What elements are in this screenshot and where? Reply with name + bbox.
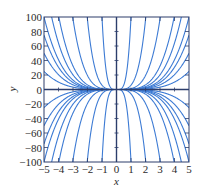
y-tick-label: −40 bbox=[25, 113, 43, 125]
x-tick-label: 5 bbox=[186, 163, 192, 175]
y-tick-label: 20 bbox=[31, 69, 43, 81]
y-axis-label: y bbox=[6, 86, 18, 92]
chart: 100806040200−20−40−60−80−100 −5−4−3−2−10… bbox=[0, 0, 202, 188]
x-tick-label: 0 bbox=[114, 163, 120, 175]
x-tick-label: 2 bbox=[143, 163, 149, 175]
y-tick-label: −60 bbox=[25, 127, 43, 139]
y-tick-label: −20 bbox=[25, 98, 43, 110]
x-tick-label: −4 bbox=[53, 163, 65, 175]
x-tick-labels: −5−4−3−2−1012345 bbox=[38, 163, 192, 175]
x-tick-label: 3 bbox=[157, 163, 163, 175]
x-axis-label: x bbox=[113, 175, 119, 187]
axes bbox=[44, 17, 189, 162]
x-tick-label: 1 bbox=[128, 163, 134, 175]
x-tick-label: −5 bbox=[38, 163, 50, 175]
x-tick-label: −3 bbox=[67, 163, 79, 175]
y-tick-label: 100 bbox=[26, 11, 43, 23]
y-tick-label: 40 bbox=[31, 55, 43, 67]
y-tick-label: 60 bbox=[31, 40, 43, 52]
x-tick-label: 4 bbox=[172, 163, 178, 175]
x-tick-label: −2 bbox=[82, 163, 94, 175]
y-tick-label: −80 bbox=[25, 142, 43, 154]
y-tick-labels: 100806040200−20−40−60−80−100 bbox=[19, 11, 42, 168]
y-tick-label: 80 bbox=[31, 26, 43, 38]
y-tick-label: 0 bbox=[37, 84, 43, 96]
x-tick-label: −1 bbox=[96, 163, 108, 175]
